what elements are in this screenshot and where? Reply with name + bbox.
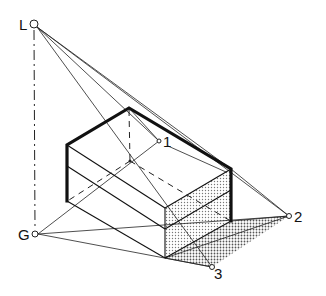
light-ray-2 [37,27,212,267]
box-edge-left-bottom [67,201,165,258]
point-L-marker [30,20,38,28]
hidden-edge-left [69,161,130,200]
box-edge-left-mid [67,166,165,229]
light-vertical-line [34,30,35,229]
light-ray-3 [37,27,159,141]
box-edge-left-top-front [67,145,165,208]
shadow-edge-1 [231,169,289,216]
point-1-marker [157,139,161,143]
label-G: G [18,226,30,243]
label-3: 3 [214,265,222,282]
label-2: 2 [294,208,302,225]
label-L: L [19,16,27,33]
diagram-canvas: L G 1 2 3 [0,0,326,296]
point-G-marker [32,231,38,237]
label-1: 1 [163,133,171,150]
light-ray-1 [37,27,289,216]
point-2-marker [287,214,292,219]
ground-ray-1 [38,141,159,234]
hidden-corner-point [129,160,132,163]
